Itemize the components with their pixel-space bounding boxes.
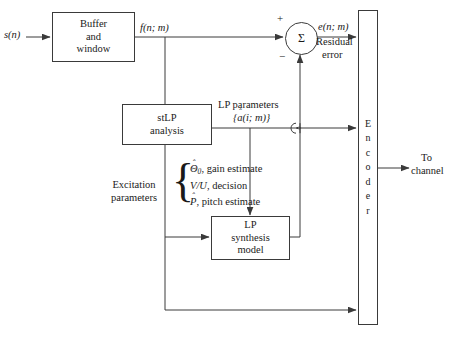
label-to-channel-line-2: channel bbox=[411, 165, 444, 178]
summer-plus-sign: + bbox=[277, 12, 283, 24]
lp-param-args: (i; m)} bbox=[242, 112, 270, 123]
label-excitation-parameters: Excitation parameters bbox=[98, 178, 170, 204]
block-stlp-analysis[interactable]: stLP analysis bbox=[122, 104, 212, 145]
excitation-line-2: parameters bbox=[98, 191, 170, 204]
lp-synth-line-3: model bbox=[237, 244, 263, 256]
label-residual-line-2: error bbox=[322, 49, 342, 62]
stlp-line-1: stLP bbox=[157, 112, 176, 124]
gain-hat-accent: ˆ bbox=[190, 158, 198, 168]
gain-symbol: ˆΘ bbox=[190, 163, 198, 176]
sigma-icon: Σ bbox=[298, 31, 305, 46]
summer-minus-sign: − bbox=[279, 50, 285, 62]
label-lp-parameters-symbol: {ˆa(i; m)} bbox=[233, 112, 270, 125]
encoder-letter-c: c bbox=[366, 146, 370, 161]
encoder-letter-r: r bbox=[366, 204, 369, 219]
block-lp-synthesis-model[interactable]: LP synthesis model bbox=[211, 216, 290, 260]
lp-param-a-hat: ˆa bbox=[237, 112, 242, 125]
encoder-letter-e2: e bbox=[366, 189, 370, 204]
label-framed-signal: f(n; m) bbox=[140, 22, 169, 35]
excitation-row-gain: ˆΘ0, gain estimate bbox=[190, 163, 262, 176]
block-buffer-and-window[interactable]: Buffer and window bbox=[52, 12, 135, 62]
diagram-canvas: Buffer and window stLP analysis LP synth… bbox=[0, 0, 454, 341]
vu-symbol-text: , decision bbox=[207, 180, 247, 191]
encoder-letter-d: d bbox=[366, 175, 371, 190]
label-lp-parameters-title: LP parameters bbox=[218, 99, 279, 112]
summing-junction[interactable]: Σ bbox=[285, 22, 318, 55]
excitation-row-vu: V/U, decision bbox=[190, 180, 247, 193]
lp-param-hat-accent: ˆ bbox=[237, 107, 242, 117]
buffer-line-1: Buffer bbox=[80, 18, 107, 30]
encoder-letter-n: n bbox=[366, 131, 371, 146]
label-error-signal: e(n; m) bbox=[318, 21, 349, 34]
label-to-channel-line-1: To bbox=[421, 152, 432, 165]
excitation-line-1: Excitation bbox=[98, 178, 170, 191]
stlp-line-2: analysis bbox=[150, 125, 184, 137]
pitch-hat-accent: ˆ bbox=[190, 191, 196, 201]
buffer-line-3: window bbox=[77, 43, 111, 55]
label-residual-line-1: Residual bbox=[316, 36, 353, 49]
pitch-symbol: ˆP bbox=[190, 196, 196, 209]
encoder-letter-o: o bbox=[366, 160, 371, 175]
vu-symbol-base: V/U bbox=[190, 180, 207, 191]
encoder-letter-e1: E bbox=[365, 117, 371, 132]
label-input-signal: s(n) bbox=[4, 29, 20, 42]
buffer-line-2: and bbox=[86, 31, 101, 43]
block-encoder[interactable]: E n c o d e r bbox=[358, 10, 378, 325]
lp-synth-line-1: LP bbox=[244, 219, 256, 231]
excitation-row-pitch: ˆP, pitch estimate bbox=[190, 196, 260, 209]
lp-synth-line-2: synthesis bbox=[231, 232, 270, 244]
pitch-symbol-text: , pitch estimate bbox=[196, 196, 260, 207]
gain-symbol-text: , gain estimate bbox=[201, 163, 262, 174]
